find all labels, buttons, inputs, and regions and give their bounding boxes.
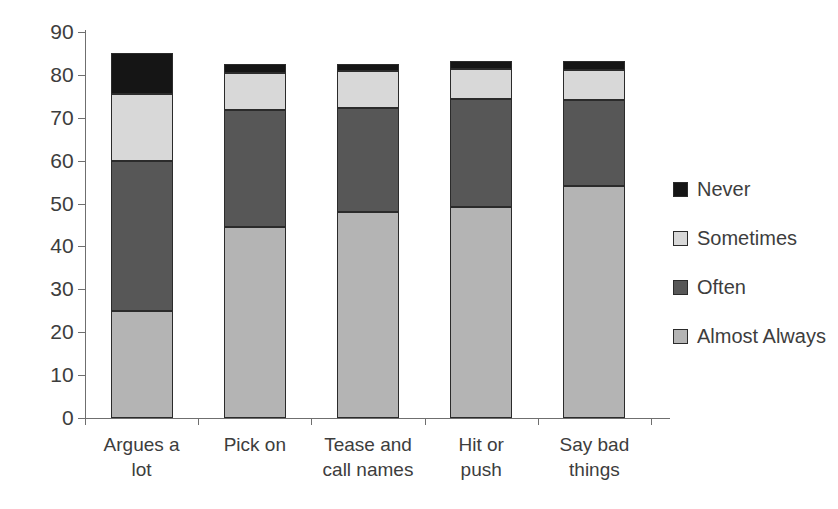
bar-segment-almost-always — [224, 227, 286, 418]
category-label-line: call names — [309, 457, 427, 482]
x-axis-category-label: Hit orpush — [422, 432, 540, 482]
category-label-line: push — [422, 457, 540, 482]
category-label-line: lot — [83, 457, 201, 482]
legend-item-label: Often — [697, 276, 746, 299]
legend-item-label: Never — [697, 178, 750, 201]
y-axis-tick-label: 40 — [50, 234, 74, 258]
y-axis-tick — [78, 375, 85, 376]
y-axis-tick — [78, 418, 85, 419]
legend-swatch-icon — [673, 280, 688, 295]
bar-segment-almost-always — [563, 186, 625, 418]
y-axis-tick-label: 50 — [50, 192, 74, 216]
y-axis-tick — [78, 289, 85, 290]
chart-legend: NeverSometimesOftenAlmost Always — [673, 178, 826, 374]
y-axis-tick-label: 30 — [50, 277, 74, 301]
legend-swatch-icon — [673, 231, 688, 246]
bar-segment-often — [111, 161, 173, 311]
stacked-bar-chart: 0102030405060708090 Argues alotPick onTe… — [0, 0, 838, 509]
x-axis-line — [85, 418, 670, 419]
bar-segment-never — [337, 64, 399, 70]
y-axis-tick — [78, 118, 85, 119]
y-axis-tick-label: 80 — [50, 63, 74, 87]
category-label-line: Say bad — [535, 432, 653, 457]
bar-stack — [337, 64, 399, 418]
legend-item-often[interactable]: Often — [673, 276, 826, 299]
bar-segment-almost-always — [111, 311, 173, 418]
bar-segment-sometimes — [111, 94, 173, 160]
x-axis-category-label: Say badthings — [535, 432, 653, 482]
bar-stack — [224, 64, 286, 418]
legend-item-label: Sometimes — [697, 227, 797, 250]
x-axis-tick — [311, 418, 312, 425]
bar-segment-never — [224, 64, 286, 73]
legend-item-almost[interactable]: Almost Always — [673, 325, 826, 348]
bar-stack — [563, 61, 625, 418]
y-axis-tick-label: 60 — [50, 149, 74, 173]
legend-item-label: Almost Always — [697, 325, 826, 348]
y-axis-tick-label: 0 — [62, 406, 74, 430]
x-axis-tick — [651, 418, 652, 425]
y-axis-tick — [78, 32, 85, 33]
y-axis-tick-label: 20 — [50, 320, 74, 344]
bar-segment-sometimes — [337, 71, 399, 108]
category-label-line: Hit or — [422, 432, 540, 457]
bar-stack — [111, 53, 173, 418]
category-label-line: Argues a — [83, 432, 201, 457]
bar-segment-often — [224, 110, 286, 227]
bar-segment-almost-always — [337, 212, 399, 418]
legend-swatch-icon — [673, 329, 688, 344]
y-axis-tick — [78, 332, 85, 333]
y-axis-tick — [78, 75, 85, 76]
bar-segment-sometimes — [563, 70, 625, 100]
bar-segment-never — [450, 61, 512, 70]
bar-segment-sometimes — [224, 73, 286, 110]
x-axis-tick — [85, 418, 86, 425]
x-axis-category-label: Pick on — [196, 432, 314, 457]
legend-item-never[interactable]: Never — [673, 178, 826, 201]
y-axis-tick — [78, 246, 85, 247]
legend-item-sometimes[interactable]: Sometimes — [673, 227, 826, 250]
y-axis-tick-label: 10 — [50, 363, 74, 387]
legend-swatch-icon — [673, 182, 688, 197]
bar-segment-often — [337, 108, 399, 212]
x-axis-tick — [538, 418, 539, 425]
bar-segment-almost-always — [450, 207, 512, 418]
bar-segment-often — [563, 100, 625, 186]
bar-segment-often — [450, 99, 512, 206]
y-axis-tick — [78, 161, 85, 162]
y-axis-tick-label: 90 — [50, 20, 74, 44]
y-axis-tick-label: 70 — [50, 106, 74, 130]
plot-area: 0102030405060708090 — [85, 32, 651, 418]
category-label-line: Pick on — [196, 432, 314, 457]
category-label-line: things — [535, 457, 653, 482]
bar-segment-sometimes — [450, 69, 512, 99]
x-axis-category-label: Argues alot — [83, 432, 201, 482]
category-label-line: Tease and — [309, 432, 427, 457]
x-axis-category-label: Tease andcall names — [309, 432, 427, 482]
bar-segment-never — [111, 53, 173, 94]
bar-stack — [450, 61, 512, 418]
x-axis-tick — [425, 418, 426, 425]
x-axis-tick — [198, 418, 199, 425]
y-axis-tick — [78, 204, 85, 205]
bar-segment-never — [563, 61, 625, 70]
